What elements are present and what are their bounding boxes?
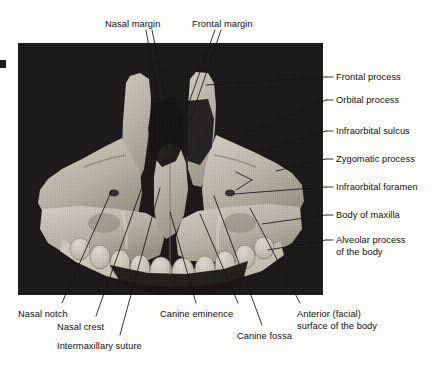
- label-zygomatic-process: Zygomatic process: [336, 154, 415, 166]
- label-alveolar-process-line1: Alveolar process: [336, 235, 406, 245]
- label-frontal-margin: Frontal margin: [192, 19, 253, 31]
- label-body-of-maxilla: Body of maxilla: [336, 210, 400, 222]
- label-anterior-facial-surface: Anterior (facial) surface of the body: [297, 309, 427, 332]
- anatomy-figure: Nasal margin Frontal margin Frontal proc…: [0, 0, 443, 365]
- label-alveolar-process: Alveolar process of the body: [336, 235, 441, 258]
- label-nasal-notch: Nasal notch: [18, 309, 68, 321]
- label-intermaxillary-suture: Intermaxillary suture: [57, 341, 142, 353]
- label-infraorbital-sulcus: Infraorbital sulcus: [336, 126, 410, 138]
- label-anterior-facial-surface-line2: surface of the body: [297, 321, 377, 331]
- maxilla-photograph: [18, 43, 323, 295]
- maxilla-bone-illustration: [18, 43, 323, 295]
- label-canine-fossa: Canine fossa: [237, 331, 292, 343]
- label-anterior-facial-surface-line1: Anterior (facial): [297, 309, 361, 319]
- label-canine-eminence: Canine eminence: [160, 309, 233, 321]
- label-frontal-process: Frontal process: [336, 72, 401, 84]
- label-alveolar-process-line2: of the body: [336, 247, 383, 257]
- label-nasal-crest: Nasal crest: [57, 322, 104, 334]
- page-edge-mark: [0, 60, 6, 68]
- label-infraorbital-foramen: Infraorbital foramen: [336, 182, 418, 194]
- label-orbital-process: Orbital process: [336, 95, 399, 107]
- label-nasal-margin: Nasal margin: [105, 19, 160, 31]
